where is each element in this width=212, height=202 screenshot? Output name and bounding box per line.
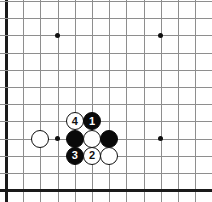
stone-white-lower-right [100, 147, 118, 165]
stone-move-number: 3 [72, 150, 78, 161]
stone-move-number: 2 [89, 150, 95, 161]
stone-black-move-3: 3 [66, 147, 84, 165]
stone-black-move-1: 1 [83, 112, 101, 130]
stone-white-left [31, 130, 49, 148]
stone-white-move-4: 4 [66, 112, 84, 130]
go-board-diagram: 4132 [0, 0, 212, 202]
stone-black-center-left [66, 130, 84, 148]
stone-move-number: 1 [89, 115, 95, 126]
stone-move-number: 4 [72, 115, 78, 126]
stone-white-center [83, 130, 101, 148]
board-stones: 4132 [0, 0, 212, 202]
stone-black-center-right [100, 130, 118, 148]
stone-white-move-2: 2 [83, 147, 101, 165]
